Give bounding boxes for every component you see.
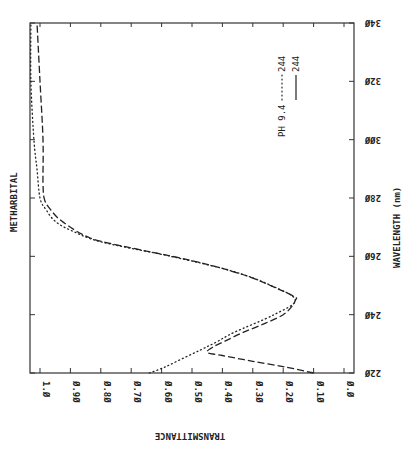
transmittance-tick-label: Ø.3Ø	[254, 380, 264, 403]
wavelength-axis: 22Ø24Ø26Ø28Ø3ØØ32Ø34Ø	[30, 18, 381, 378]
legend-dotted-value: 244	[277, 56, 287, 72]
legend-ph-label: PH 9.4	[277, 104, 287, 137]
transmittance-tick-label: 1.Ø	[41, 381, 51, 398]
transmittance-tick-label: Ø.8Ø	[102, 380, 112, 403]
transmittance-tick-label: Ø.1Ø	[315, 380, 325, 403]
transmittance-tick-label: Ø.Ø	[345, 380, 355, 398]
wavelength-tick-label: 22Ø	[364, 368, 381, 378]
legend-dashed-value: 244	[291, 56, 301, 72]
transmittance-tick-label: Ø.6Ø	[163, 380, 173, 403]
wavelength-tick-label: 32Ø	[364, 76, 381, 86]
compound-title: METHARBITAL	[9, 172, 19, 232]
spectrum-chart: 22Ø24Ø26Ø28Ø3ØØ32Ø34Ø 1.ØØ.9ØØ.8ØØ.7ØØ.6…	[0, 0, 405, 465]
curve-ph-9-4-dotted	[31, 23, 296, 373]
wavelength-axis-title: WAVELENGTH (nm)	[392, 187, 402, 268]
transmittance-axis-title: TRANSMITTANCE	[155, 431, 225, 441]
legend: PH 9.4 244 244	[277, 56, 301, 137]
transmittance-axis: 1.ØØ.9ØØ.8ØØ.7ØØ.6ØØ.5ØØ.4ØØ.3ØØ.2ØØ.1ØØ…	[40, 23, 355, 403]
wavelength-tick-label: 34Ø	[364, 18, 381, 28]
transmittance-tick-label: Ø.9Ø	[71, 380, 81, 403]
wavelength-tick-label: 3ØØ	[364, 135, 381, 145]
wavelength-tick-label: 26Ø	[364, 251, 381, 261]
plot-frame	[30, 23, 354, 373]
wavelength-tick-label: 24Ø	[364, 310, 381, 320]
transmittance-tick-label: Ø.4Ø	[223, 380, 233, 403]
curve-244-dashed	[37, 23, 314, 373]
transmittance-tick-label: Ø.5Ø	[193, 380, 203, 403]
transmittance-tick-label: Ø.2Ø	[284, 380, 294, 403]
wavelength-tick-label: 28Ø	[364, 193, 381, 203]
transmittance-tick-label: Ø.7Ø	[132, 380, 142, 403]
